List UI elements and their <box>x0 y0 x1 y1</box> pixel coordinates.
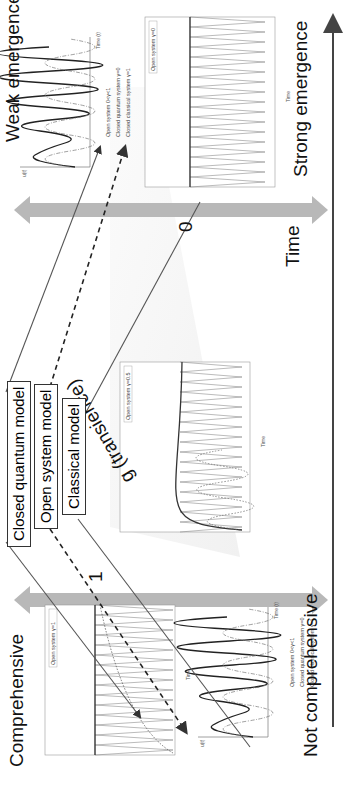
transience-start-value: 1 <box>85 571 107 582</box>
open-system-model-box: Open system model <box>34 384 58 529</box>
svg-text:Open system γ=0: Open system γ=0 <box>150 28 156 71</box>
label-weak-emergence: Weak emergence <box>2 0 24 142</box>
svg-text:Open system 0<γ<1: Open system 0<γ<1 <box>289 638 295 687</box>
svg-text:Time: Time <box>260 436 266 447</box>
svg-text:Time (t): Time (t) <box>273 602 279 619</box>
label-not-comprehensive: Not comprehensive <box>300 593 322 757</box>
svg-text:Open system 0<γ<1: Open system 0<γ<1 <box>105 88 111 137</box>
svg-text:Open system γ=0.5: Open system γ=0.5 <box>125 372 131 420</box>
figure-canvas: Open system γ=1 Time u(t) Time (t) Open … <box>0 0 353 787</box>
label-strong-emergence: Strong emergence <box>290 21 312 177</box>
svg-text:Closed classical system γ=1: Closed classical system γ=1 <box>125 68 131 137</box>
svg-text:Open system γ=1: Open system γ=1 <box>50 622 56 665</box>
svg-text:Closed quantum system γ=0: Closed quantum system γ=0 <box>115 67 121 137</box>
plot-open-gamma05: Open system γ=0.5 Time <box>120 362 266 532</box>
plot-open-gamma1: Open system γ=1 Time <box>45 605 191 755</box>
label-comprehensive: Comprehensive <box>6 634 28 767</box>
closed-quantum-model-box: Closed quantum model <box>7 381 31 547</box>
svg-text:u(t): u(t) <box>199 739 205 747</box>
svg-text:u(t): u(t) <box>21 169 27 177</box>
svg-text:Time (t): Time (t) <box>95 32 101 49</box>
plot-open-gamma0: Open system γ=0 Time <box>145 17 291 187</box>
classical-model-box: Classical model <box>62 398 86 515</box>
time-axis-label: Time <box>282 225 304 267</box>
transience-end-value: 0 <box>175 221 197 232</box>
